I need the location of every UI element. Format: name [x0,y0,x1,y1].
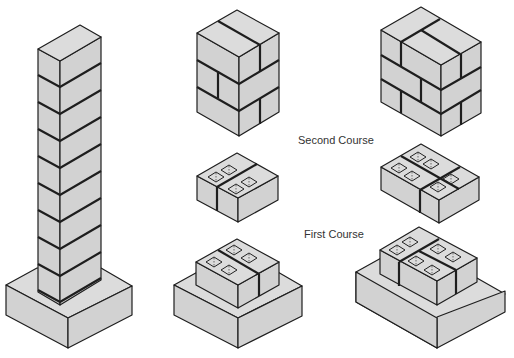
large-second-course-figure [381,144,479,223]
small-second-course-figure [197,153,278,222]
large-first-course-figure [356,227,505,348]
tall-pillar-figure [6,25,132,348]
second-course-label: Second Course [298,134,374,146]
masonry-diagram [0,0,514,358]
small-brick-column-figure [197,10,279,136]
first-course-label: First Course [304,228,364,240]
small-first-course-figure [174,239,302,348]
pillar-column [38,25,101,305]
large-brick-column-figure [381,7,481,136]
